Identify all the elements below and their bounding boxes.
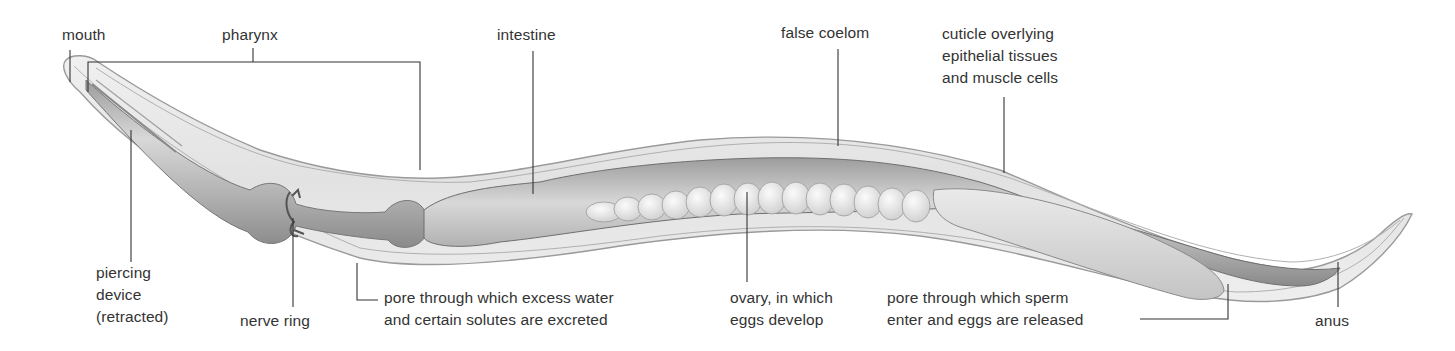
label-cuticle: cuticle overlying epithelial tissues and… [942,23,1058,89]
label-ovary: ovary, in which eggs develop [730,287,833,331]
label-false-coelom-text: false coelom [781,22,869,44]
label-anus-text: anus [1315,310,1349,332]
label-anus: anus [1315,310,1349,332]
label-cuticle-line1: cuticle overlying [942,23,1058,45]
label-ovary-line1: ovary, in which [730,287,833,309]
label-genital-line2: enter and eggs are released [887,309,1084,331]
label-piercing-device: piercing device (retracted) [96,262,169,328]
label-nerve-ring: nerve ring [240,310,310,332]
label-intestine-text: intestine [497,24,556,46]
label-nerve-ring-text: nerve ring [240,310,310,332]
label-intestine: intestine [497,24,556,46]
label-excretory-line2: and certain solutes are excreted [384,309,614,331]
label-piercing-line2: device [96,284,169,306]
label-genital-pore: pore through which sperm enter and eggs … [887,287,1084,331]
label-mouth: mouth [62,24,106,46]
label-excretory-pore: pore through which excess water and cert… [384,287,614,331]
label-pharynx-text: pharynx [222,24,278,46]
label-cuticle-line2: epithelial tissues [942,45,1058,67]
label-piercing-line1: piercing [96,262,169,284]
label-ovary-line2: eggs develop [730,309,833,331]
label-pharynx: pharynx [222,24,278,46]
label-mouth-text: mouth [62,24,106,46]
label-cuticle-line3: and muscle cells [942,67,1058,89]
label-excretory-line1: pore through which excess water [384,287,614,309]
label-genital-line1: pore through which sperm [887,287,1084,309]
roundworm-diagram [0,0,1455,351]
label-piercing-line3: (retracted) [96,306,169,328]
label-false-coelom: false coelom [781,22,869,44]
